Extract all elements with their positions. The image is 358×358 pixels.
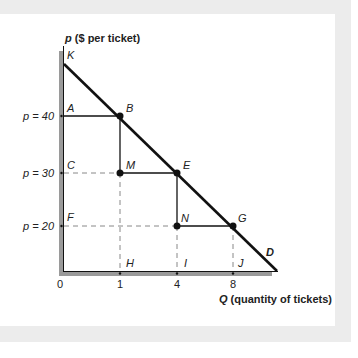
label-a: A: [66, 102, 74, 114]
label-g: G: [238, 212, 247, 224]
dashed-guides: [64, 173, 233, 271]
x-tick-1: 1: [117, 278, 123, 290]
x-tick-4: 4: [174, 278, 180, 290]
demand-curve-line: [64, 64, 277, 271]
label-j: J: [237, 257, 244, 269]
label-c: C: [67, 159, 75, 171]
point-g: [230, 223, 237, 230]
label-k: K: [67, 49, 75, 61]
label-n: N: [181, 212, 189, 224]
x-tick-0: 0: [57, 278, 63, 290]
point-m: [117, 170, 124, 177]
x-tick-8: 8: [230, 278, 236, 290]
y-tick-30: p = 30: [22, 167, 55, 179]
y-tick-20: p = 20: [22, 220, 55, 232]
x-axis-title: Q (quantity of tickets): [219, 293, 332, 305]
staircase-lines: [64, 116, 233, 226]
label-i: I: [184, 257, 187, 269]
label-d: D: [266, 246, 274, 258]
label-f: F: [67, 211, 75, 223]
y-tick-40: p = 40: [22, 110, 55, 122]
tick-dots: [60, 115, 234, 275]
demand-chart: p ($ per ticket) Q (quantity of tickets)…: [0, 0, 358, 358]
label-m: M: [126, 159, 136, 171]
label-h: H: [126, 257, 134, 269]
point-n: [174, 223, 181, 230]
label-e: E: [183, 159, 191, 171]
point-b: [117, 113, 124, 120]
point-e: [174, 170, 181, 177]
label-b: B: [126, 102, 133, 114]
y-axis-title: p ($ per ticket): [64, 32, 141, 44]
